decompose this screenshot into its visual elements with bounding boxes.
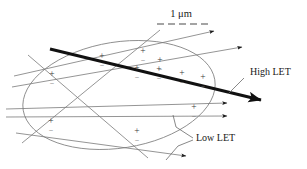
ion-pair: + − <box>134 126 139 145</box>
ion-pair: + − <box>140 46 145 65</box>
charge-plus-symbol: + <box>140 46 145 56</box>
charge-plus-symbol: + <box>134 126 139 136</box>
charge-plus-symbol: + <box>134 63 139 73</box>
ion-pair: + − <box>134 63 139 82</box>
charge-minus-symbol: − <box>157 74 162 83</box>
charge-plus-symbol: + <box>200 72 205 82</box>
ion-pair: + − <box>99 51 104 70</box>
cell-nucleus-ellipse <box>15 27 223 162</box>
charge-minus-symbol: − <box>180 78 185 87</box>
low-let-leader-line-upper <box>176 127 193 138</box>
charge-minus-symbol: − <box>135 73 140 82</box>
high-let-leader-line <box>228 78 244 94</box>
low-let-leader-line-lower-branch <box>166 146 178 160</box>
ion-pair: + − <box>156 64 161 83</box>
charge-minus-symbol: − <box>100 61 105 70</box>
charge-plus-symbol: + <box>179 68 184 78</box>
charge-minus-symbol: − <box>192 112 197 121</box>
scale-bar-label: 1 μm <box>170 8 192 19</box>
low-let-leader-line-upper-branch <box>173 115 176 127</box>
figure-container: 1 μm + − + − + <box>0 0 307 169</box>
low-let-label: Low LET <box>196 132 235 143</box>
track-structure-diagram: 1 μm + − + − + <box>0 0 307 169</box>
ion-pair: + − <box>191 102 196 121</box>
high-let-label: High LET <box>250 66 291 77</box>
charge-minus-symbol: − <box>49 126 54 135</box>
charge-plus-symbol: + <box>49 69 54 79</box>
charge-minus-symbol: − <box>135 136 140 145</box>
ion-pair-group: + − + − + − + − + − + − <box>48 46 205 145</box>
charge-minus-symbol: − <box>141 56 146 65</box>
charge-plus-symbol: + <box>156 64 161 74</box>
low-let-track-e <box>16 133 186 156</box>
ion-pair: + − <box>200 72 205 91</box>
ion-pair: + − <box>48 116 53 135</box>
charge-plus-symbol: + <box>48 116 53 126</box>
charge-plus-symbol: + <box>99 51 104 61</box>
charge-minus-symbol: − <box>201 82 206 91</box>
ion-pair: + − <box>49 69 54 88</box>
charge-minus-symbol: − <box>50 79 55 88</box>
ion-pair: + − <box>179 68 184 87</box>
scale-bar-group: 1 μm <box>157 8 208 24</box>
charge-plus-symbol: + <box>191 102 196 112</box>
low-let-leader-line-lower <box>178 140 193 146</box>
